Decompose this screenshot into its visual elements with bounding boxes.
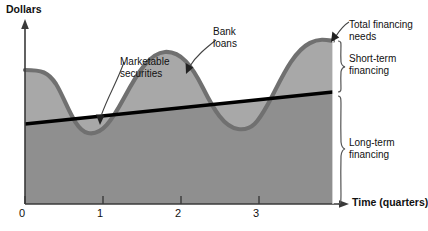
x-tick-label-0: 0 bbox=[19, 207, 25, 219]
short-term-financing-brace bbox=[338, 41, 345, 92]
x-tick-label-3: 3 bbox=[253, 207, 259, 219]
x-tick-label-1: 1 bbox=[97, 207, 103, 219]
y-axis-arrow-icon bbox=[21, 19, 29, 29]
y-axis-title: Dollars bbox=[6, 4, 42, 16]
marketable-securities-label: Marketable securities bbox=[120, 56, 169, 79]
long-term-financing-brace bbox=[338, 96, 345, 204]
long-term-financing-label: Long-term financing bbox=[349, 137, 395, 160]
x-tick-label-2: 2 bbox=[175, 207, 181, 219]
short-term-financing-label: Short-term financing bbox=[349, 53, 396, 76]
x-axis-title: Time (quarters) bbox=[352, 197, 428, 209]
bank-loans-label: Bank loans bbox=[213, 26, 237, 49]
total-financing-needs-label: Total financing needs bbox=[349, 19, 413, 42]
total-financing-needs-leader bbox=[336, 22, 349, 36]
